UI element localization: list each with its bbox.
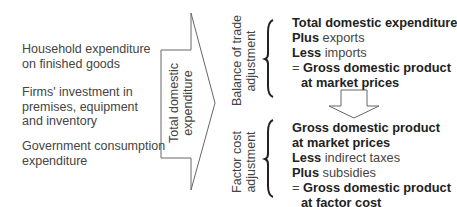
- main-arrow-label-line-2: expenditure: [181, 58, 195, 148]
- factor-line-result-equals: =: [292, 180, 303, 195]
- trade-line-result-bold: Gross domestic product: [303, 60, 451, 75]
- factor-line-market-bold: at market prices: [292, 135, 390, 150]
- factor-cost-adjustment-label-line-2: adjustment: [244, 122, 258, 202]
- trade-statement: Total domestic expenditure Plus exports …: [292, 15, 457, 90]
- factor-line-subsidies: Plus subsidies: [292, 165, 451, 180]
- trade-adjustment-label-line-2: adjustment: [244, 16, 258, 106]
- factor-line-subsidies-text: subsidies: [319, 165, 376, 180]
- main-arrow-label: Total domestic expenditure: [167, 58, 195, 148]
- trade-line-exports-text: exports: [319, 30, 365, 45]
- trade-line-result: = Gross domestic product: [292, 60, 457, 75]
- input-government-line-1: Government consumption: [22, 139, 165, 154]
- trade-line-result-cont-bold: at market prices: [301, 75, 399, 90]
- input-household-line-2: on finished goods: [22, 57, 151, 72]
- trade-line-exports-bold: Plus: [292, 30, 319, 45]
- factor-line-result-cont: at factor cost: [292, 195, 451, 207]
- factor-line-gdp: Gross domestic product: [292, 120, 451, 135]
- down-arrow-shape: [329, 90, 379, 118]
- trade-adjustment-label: Balance of trade adjustment: [230, 16, 258, 106]
- input-firms: Firms' investment in premises, equipment…: [22, 85, 138, 129]
- factor-statement: Gross domestic product at market prices …: [292, 120, 451, 207]
- input-government-line-2: expenditure: [22, 154, 165, 169]
- input-firms-line-3: and inventory: [22, 114, 138, 129]
- trade-line-result-equals: =: [292, 60, 303, 75]
- brace-icon-trade: [265, 20, 273, 97]
- factor-line-gdp-bold: Gross domestic product: [292, 120, 440, 135]
- factor-line-taxes-text: indirect taxes: [321, 150, 400, 165]
- brace-icon-factor: [265, 120, 273, 197]
- factor-line-taxes-bold: Less: [292, 150, 321, 165]
- factor-cost-adjustment-label: Factor cost adjustment: [230, 122, 258, 202]
- factor-line-market: at market prices: [292, 135, 451, 150]
- factor-line-result: = Gross domestic product: [292, 180, 451, 195]
- trade-adjustment-label-line-1: Balance of trade: [230, 16, 244, 106]
- factor-line-taxes: Less indirect taxes: [292, 150, 451, 165]
- input-firms-line-2: premises, equipment: [22, 100, 138, 115]
- factor-line-subsidies-bold: Plus: [292, 165, 319, 180]
- input-household: Household expenditure on finished goods: [22, 42, 151, 71]
- factor-cost-adjustment-label-line-1: Factor cost: [230, 122, 244, 202]
- main-arrow-label-line-1: Total domestic: [167, 58, 181, 148]
- trade-line-imports: Less imports: [292, 45, 457, 60]
- input-firms-line-1: Firms' investment in: [22, 85, 138, 100]
- factor-line-result-cont-bold: at factor cost: [301, 195, 381, 207]
- trade-line-imports-text: imports: [321, 45, 367, 60]
- input-household-line-1: Household expenditure: [22, 42, 151, 57]
- trade-line-total: Total domestic expenditure: [292, 15, 457, 30]
- input-government: Government consumption expenditure: [22, 139, 165, 168]
- trade-line-exports: Plus exports: [292, 30, 457, 45]
- trade-line-imports-bold: Less: [292, 45, 321, 60]
- trade-line-total-bold: Total domestic expenditure: [292, 15, 457, 30]
- trade-line-result-cont: at market prices: [292, 75, 457, 90]
- factor-line-result-bold: Gross domestic product: [303, 180, 451, 195]
